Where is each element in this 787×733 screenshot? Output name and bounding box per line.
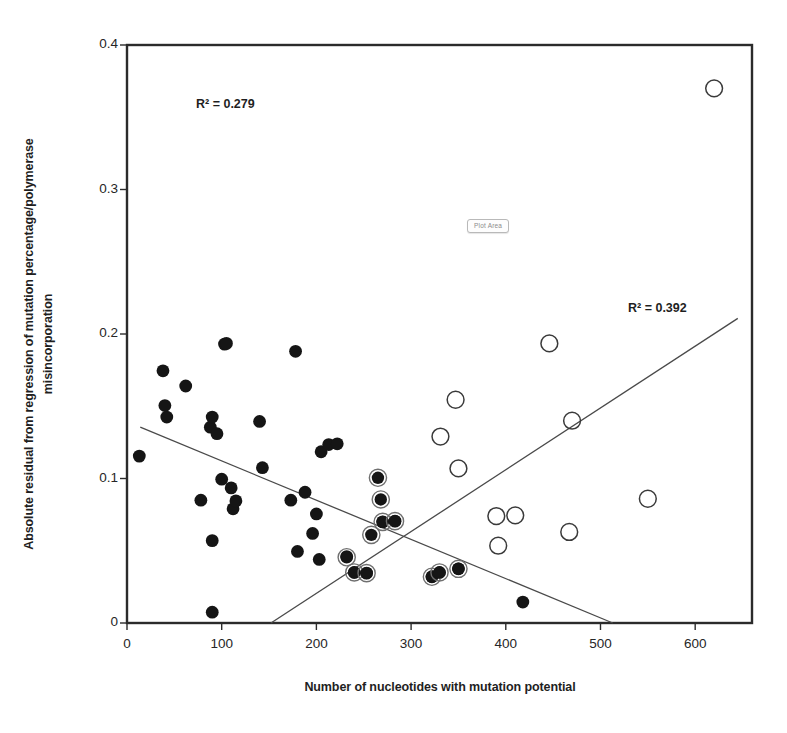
descending-trendline — [140, 427, 613, 623]
data-point-open-circle — [561, 524, 578, 541]
data-point-filled-circle — [284, 494, 297, 507]
data-point-filled-circle — [516, 596, 529, 609]
data-point-open-circle — [447, 391, 464, 408]
data-point-filled-circle — [211, 427, 224, 440]
data-point-filled-circle — [157, 364, 170, 377]
data-point-open-circle — [490, 537, 507, 554]
data-point-open-circle — [488, 508, 505, 525]
data-point-filled-circle — [253, 415, 266, 428]
data-point-open-circle — [450, 460, 467, 477]
data-point-filled-circle — [289, 345, 302, 358]
data-point-open-circle — [706, 80, 723, 97]
data-points — [133, 80, 723, 619]
data-point-filled-circle — [179, 380, 192, 393]
data-point-filled-circle — [433, 566, 445, 578]
ascending-trendline — [271, 318, 738, 623]
data-point-open-circle — [432, 428, 449, 445]
data-point-filled-circle — [313, 553, 326, 566]
data-point-filled-circle — [206, 411, 219, 424]
data-point-filled-circle — [340, 551, 352, 563]
data-point-filled-circle — [299, 486, 312, 499]
data-point-filled-circle — [230, 494, 243, 507]
data-point-open-circle — [639, 490, 656, 507]
scatter-plot-figure: Absolute residual from regression of mut… — [0, 0, 787, 733]
data-point-filled-circle — [215, 473, 228, 486]
data-point-filled-circle — [389, 515, 401, 527]
data-point-filled-circle — [310, 508, 323, 521]
data-point-filled-circle — [194, 494, 207, 507]
data-point-filled-circle — [206, 534, 219, 547]
data-point-filled-circle — [256, 461, 269, 474]
data-point-filled-circle — [158, 399, 171, 412]
data-point-filled-circle — [306, 527, 319, 540]
data-point-filled-circle — [360, 567, 372, 579]
axis-frame — [127, 45, 752, 623]
data-point-filled-circle — [206, 606, 219, 619]
data-point-filled-circle — [375, 493, 387, 505]
data-point-open-circle — [507, 507, 524, 524]
plot-frame-box — [127, 45, 752, 623]
data-point-filled-circle — [291, 545, 304, 558]
data-point-filled-circle — [331, 437, 344, 450]
data-point-filled-circle — [160, 411, 173, 424]
data-point-filled-circle — [452, 563, 464, 575]
plot-canvas — [0, 0, 787, 733]
data-point-open-circle — [541, 335, 558, 352]
data-point-filled-circle — [365, 529, 377, 541]
data-point-filled-circle — [372, 472, 384, 484]
data-point-filled-circle — [225, 481, 238, 494]
data-point-filled-circle — [133, 450, 146, 463]
data-point-filled-circle — [220, 337, 233, 350]
